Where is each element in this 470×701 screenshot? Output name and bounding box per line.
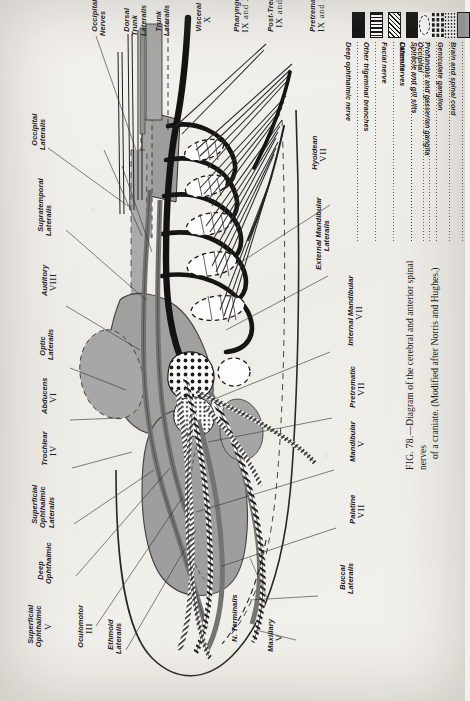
- legend-label: Deep ophthalmic nerve: [344, 42, 353, 121]
- legend-label: Other nerves: [398, 42, 407, 86]
- label-hyoidean-vii: HyoideanVII: [302, 136, 328, 174]
- label-n-terminalis: N. Terminalis: [222, 594, 239, 646]
- label-pretrematic-vii: PretrematicVII: [340, 366, 366, 412]
- label-superficial-ophthalmic-v: Superficial OphthalmicV: [18, 605, 52, 648]
- label-visceral-x: VisceralX: [186, 3, 212, 36]
- label-external-mandibular-lateralis: External Mandibular Lateralis: [306, 197, 332, 274]
- label-mandibular-v: MandibularV: [340, 421, 366, 466]
- label-pharyngeal-ix-x: PharyngealIX and X: [224, 0, 250, 36]
- caption-line-2: of a craniate. (Modified after Norris an…: [429, 255, 442, 470]
- legend-label: Other trigeminal branches: [362, 42, 371, 131]
- legend-label: Geniculate ganglion: [436, 42, 445, 111]
- legend-swatch-coarse-dots: [431, 12, 444, 38]
- label-occipital-lateralis: Occipital Lateralis: [22, 114, 48, 150]
- label-occipital-nerves: Occipital Nerves: [82, 0, 108, 36]
- label-supratemporal-lateralis: Supratemporal Lateralis: [28, 178, 54, 236]
- label-auditory-viii: AuditoryVIII: [32, 265, 58, 300]
- legend-dot-leader: [462, 42, 463, 242]
- label-optic-lateralis: Optic Lateralis: [30, 329, 56, 360]
- label-dorsal-trunk-lateralis: Dorsal Trunk Lateralis: [114, 5, 148, 36]
- legend-label: Profundus and gasserian ganglia: [423, 42, 432, 155]
- legend-swatch-solid-black-bar: [352, 12, 365, 38]
- label-buccal-lateralis: Buccal Lateralis: [330, 563, 356, 594]
- label-post-trematic-ix-x: Post-TrematicIX and X: [258, 0, 284, 36]
- label-abducens-vi: AbducensVI: [32, 377, 58, 418]
- legend-swatch-gray-block-outlined: [457, 12, 470, 38]
- figure-caption: FIG. 78.—Diagram of the cerebral and ant…: [404, 255, 442, 470]
- label-oculomotor-iii: OculomotorIII: [68, 605, 94, 652]
- legend-dot-leader: [357, 42, 358, 242]
- label-trunk-lateralis: Trunk Lateralis: [146, 5, 172, 36]
- legend-swatch-fine-dots: [444, 12, 457, 38]
- label-pretrematic-ix-x: PretrematicIX and X: [300, 0, 326, 36]
- label-deep-ophthalmic: Deep Ophthalmic: [28, 542, 54, 584]
- legend-label: Spiracle and gill slits: [410, 42, 419, 114]
- legend-swatch-cross-hatched-bar: [388, 12, 401, 38]
- label-trochlear-iv: TrochlearIV: [32, 431, 58, 470]
- legend-swatch-dashed-ellipse: [418, 12, 431, 38]
- figure-number: FIG. 78.: [404, 435, 415, 470]
- label-palatine-vii: PalatineVII: [340, 495, 366, 528]
- legend-dot-leader: [375, 42, 376, 242]
- legend-swatch-fine-ladder-bar: [370, 12, 383, 38]
- legend-label: Facial nerve: [380, 42, 389, 84]
- label-superficial-ophthalmic-lateralis: Superficial Ophthalmic Lateralis: [22, 485, 56, 528]
- legend-dot-leader: [393, 42, 394, 242]
- label-maxillary-v: MaxillaryV: [258, 619, 284, 656]
- label-ethmoid-lateralis: Ethmoid Lateralis: [98, 619, 124, 654]
- legend-label: Brain and spinal cord: [449, 42, 458, 116]
- legend-entry-brain-spinal-cord: Brain and spinal cord: [457, 12, 470, 332]
